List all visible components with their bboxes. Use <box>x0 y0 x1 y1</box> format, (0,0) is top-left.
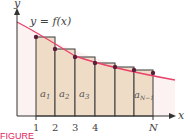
tick-label-N: N <box>148 122 159 133</box>
tick-label-1: 1 <box>33 122 39 133</box>
y-axis-label: y <box>13 0 21 10</box>
rect-a4 <box>95 63 115 116</box>
x-axis-label: x <box>178 109 185 122</box>
tick-label-3: 3 <box>72 122 78 133</box>
tick-label-2: 2 <box>52 122 58 133</box>
integral-test-diagram: y x y = f(x) 1 2 3 4 N a1 a2 a3 aN−1 <box>0 0 190 140</box>
rect-a2 <box>55 49 75 116</box>
tick-label-4: 4 <box>92 122 98 133</box>
curve-label: y = f(x) <box>29 15 71 28</box>
tick-marks <box>36 116 153 120</box>
rect-a3 <box>75 57 95 116</box>
figure-caption: FIGURE 1 <box>0 133 40 140</box>
rect-a1 <box>36 37 55 116</box>
rect-a5 <box>115 67 134 116</box>
